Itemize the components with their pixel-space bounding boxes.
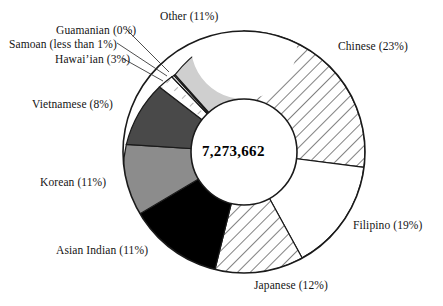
pie-chart-figure: Other (11%) Guamanian (0%) Samoan (less … bbox=[0, 0, 443, 306]
slice-label-vietnamese: Vietnamese (8%) bbox=[32, 98, 113, 110]
center-total-value: 7,273,662 bbox=[202, 143, 265, 160]
slice-label-asian-indian: Asian Indian (11%) bbox=[56, 244, 148, 256]
slice-label-korean: Korean (11%) bbox=[40, 176, 106, 188]
slice-label-other: Other (11%) bbox=[160, 10, 218, 22]
slice-label-chinese: Chinese (23%) bbox=[338, 40, 408, 52]
slice-label-filipino: Filipino (19%) bbox=[353, 219, 422, 231]
slice-label-japanese: Japanese (12%) bbox=[254, 279, 328, 291]
slice-label-hawaiian: Hawai’ian (3%) bbox=[55, 53, 130, 65]
slice-label-samoan: Samoan (less than 1%) bbox=[9, 38, 117, 50]
slice-label-guamanian: Guamanian (0%) bbox=[56, 24, 136, 36]
